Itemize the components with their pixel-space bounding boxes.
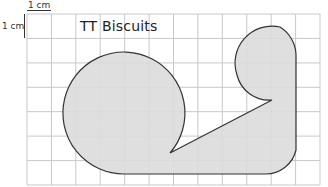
biscuit-shape [63, 26, 296, 174]
diagram-title: TT Biscuits [80, 18, 158, 34]
grid-diagram [0, 0, 328, 187]
